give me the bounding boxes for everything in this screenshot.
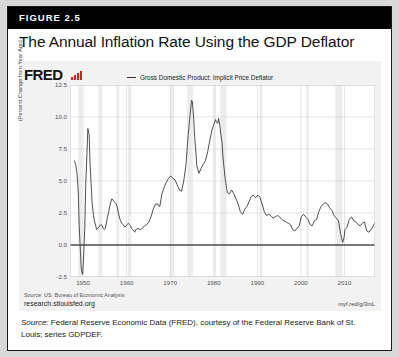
plot-area	[70, 85, 375, 277]
inflation-line-chart	[70, 85, 375, 277]
x-tick-label: 1950	[76, 279, 90, 286]
x-axis-ticks: 1950196019701980199020002010	[70, 279, 375, 291]
y-tick-label: 2.5	[27, 209, 67, 216]
x-tick-label: 1970	[163, 279, 177, 286]
y-tick-label: 10.0	[27, 113, 67, 120]
chart-legend: Gross Domestic Product: Implicit Price D…	[127, 74, 273, 81]
figure-caption: Source: Federal Reserve Economic Data (F…	[21, 317, 371, 341]
x-tick-label: 1960	[120, 279, 134, 286]
y-tick-label: 12.5	[27, 81, 67, 88]
caption-text: Federal Reserve Economic Data (FRED), co…	[21, 318, 355, 339]
figure-header-bar: FIGURE 2.5	[8, 7, 391, 29]
x-tick-label: 1980	[207, 279, 221, 286]
figure-card: FIGURE 2.5 The Annual Inflation Rate Usi…	[7, 6, 392, 351]
y-tick-label: 5.0	[27, 177, 67, 184]
legend-label: Gross Domestic Product: Implicit Price D…	[140, 74, 273, 81]
chart-short-url[interactable]: myf.red/g/3inL	[338, 301, 375, 307]
x-tick-label: 1990	[250, 279, 264, 286]
y-axis-ticks: -2.50.02.55.07.510.012.5	[25, 85, 67, 277]
fred-chart-panel: FRED Gross Domestic Product: Implicit Pr…	[19, 61, 381, 311]
figure-container: FIGURE 2.5 The Annual Inflation Rate Usi…	[0, 0, 399, 357]
caption-lead: Source:	[21, 318, 49, 327]
y-axis-label: (Percent Change from Year Ago)	[17, 6, 23, 121]
y-tick-label: -2.5	[27, 273, 67, 280]
figure-number: FIGURE 2.5	[19, 12, 81, 23]
x-tick-label: 2000	[294, 279, 308, 286]
figure-title: The Annual Inflation Rate Using the GDP …	[19, 33, 354, 51]
x-tick-label: 2010	[338, 279, 352, 286]
red-bar-chart-icon	[71, 71, 83, 80]
chart-source-url[interactable]: research.stlouisfed.org	[24, 300, 95, 307]
chart-source-note: Source: US. Bureau of Economic Analysis	[24, 292, 124, 298]
y-tick-label: 7.5	[27, 145, 67, 152]
legend-line-swatch	[127, 77, 136, 78]
y-tick-label: 0.0	[27, 241, 67, 248]
fred-logo: FRED	[24, 67, 62, 82]
